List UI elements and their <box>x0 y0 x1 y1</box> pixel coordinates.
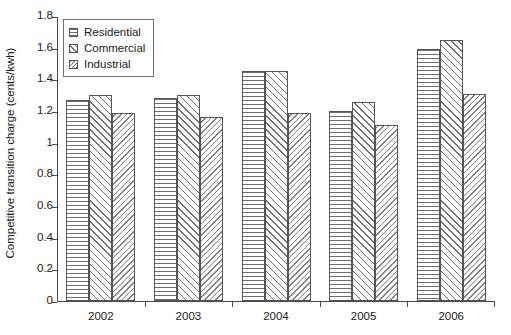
y-tick-label: 1 <box>47 136 53 148</box>
legend-label: Residential <box>84 26 141 38</box>
bar-commercial-2006 <box>440 40 463 301</box>
legend-item-industrial: Industrial <box>69 56 145 72</box>
bar-chart: Competitive transition charge (cents/kwh… <box>0 0 511 335</box>
y-tick-label: 1.2 <box>37 104 53 116</box>
legend-swatch-residential <box>69 28 78 37</box>
legend-label: Industrial <box>84 58 131 70</box>
x-axis-label-2003: 2003 <box>145 310 233 322</box>
y-tick-label: 1.6 <box>37 41 53 53</box>
y-tick-label: 0.2 <box>37 262 53 274</box>
x-tick-mark <box>407 302 408 307</box>
y-tick-label: 0.8 <box>37 167 53 179</box>
bar-commercial-2005 <box>352 102 375 302</box>
x-axis-label-2006: 2006 <box>407 310 495 322</box>
bar-commercial-2003 <box>177 95 200 301</box>
x-tick-mark <box>232 302 233 307</box>
bar-industrial-2005 <box>375 125 398 301</box>
x-axis-label-2002: 2002 <box>57 310 145 322</box>
bar-residential-2002 <box>66 100 89 301</box>
y-tick-label: 1.4 <box>37 72 53 84</box>
legend: ResidentialCommercialIndustrial <box>63 19 154 77</box>
legend-swatch-industrial <box>69 60 78 69</box>
legend-item-commercial: Commercial <box>69 40 145 56</box>
bar-industrial-2004 <box>288 113 311 301</box>
x-axis-label-2005: 2005 <box>320 310 408 322</box>
x-axis-label-2004: 2004 <box>232 310 320 322</box>
legend-swatch-commercial <box>69 44 78 53</box>
bar-residential-2003 <box>154 98 177 301</box>
x-tick-mark <box>494 302 495 307</box>
y-tick-label: 0.6 <box>37 199 53 211</box>
y-axis-line <box>57 17 58 302</box>
bar-industrial-2002 <box>112 113 135 301</box>
x-axis-line <box>57 301 495 302</box>
bar-commercial-2002 <box>89 95 112 301</box>
y-tick-label: 0 <box>47 294 53 306</box>
legend-label: Commercial <box>84 42 145 54</box>
y-tick-label: 0.4 <box>37 231 53 243</box>
bar-industrial-2003 <box>200 117 223 301</box>
y-axis-title: Competitive transition charge (cents/kwh… <box>2 0 18 308</box>
x-tick-mark <box>320 302 321 307</box>
bar-residential-2005 <box>329 111 352 301</box>
bar-industrial-2006 <box>463 94 486 301</box>
bar-commercial-2004 <box>265 71 288 301</box>
x-tick-mark <box>145 302 146 307</box>
y-tick-label: 1.8 <box>37 9 53 21</box>
bar-residential-2004 <box>242 71 265 301</box>
bar-residential-2006 <box>417 49 440 301</box>
legend-item-residential: Residential <box>69 24 145 40</box>
